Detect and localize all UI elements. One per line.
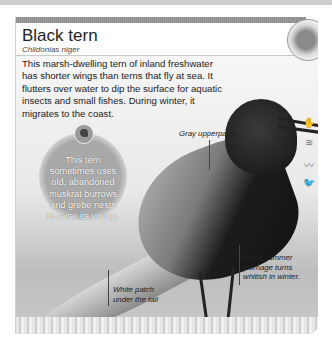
title-box: Black tern Chlidonias niger bbox=[16, 23, 306, 56]
leader-line bbox=[209, 140, 210, 170]
fact-bubble-text: This tern sometimes uses old, abandoned … bbox=[47, 155, 119, 222]
scientific-name: Chlidonias niger bbox=[22, 45, 79, 54]
bird-head-illustration bbox=[225, 99, 297, 174]
habitat-icons: ✋ ≋ 〰 🐦 bbox=[296, 117, 318, 192]
hand-waves-icon: ✋ bbox=[296, 117, 318, 129]
label-upperparts: Gray upperparts bbox=[179, 129, 235, 139]
waves-icon: 〰 bbox=[296, 157, 318, 169]
description: This marsh-dwelling tern of inland fresh… bbox=[22, 58, 222, 120]
species-card: Black tern Chlidonias niger This marsh-d… bbox=[15, 17, 318, 334]
reeds-icon: ≋ bbox=[296, 137, 318, 149]
label-summer-plumage: Black summer plumage turns whitish in wi… bbox=[243, 253, 313, 282]
bird-hand-icon: 🐦 bbox=[296, 177, 318, 189]
bird-icon bbox=[74, 124, 94, 144]
top-strip bbox=[0, 0, 332, 5]
leader-line bbox=[108, 270, 109, 306]
species-title: Black tern bbox=[22, 26, 98, 46]
leader-line bbox=[239, 245, 240, 285]
ground-texture bbox=[16, 317, 318, 334]
label-tail-patch: White patch under the tail bbox=[113, 285, 173, 304]
